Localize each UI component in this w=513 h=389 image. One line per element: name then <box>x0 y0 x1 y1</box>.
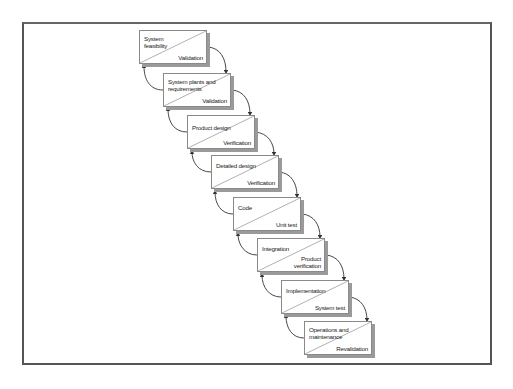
stage-box-3: Product design Verification <box>187 115 255 149</box>
phase-label: Detailed design <box>216 162 274 169</box>
phase-label: System feasibility <box>144 35 178 49</box>
check-label: Verification <box>247 179 275 186</box>
stage-box-7: Implementation System test <box>281 280 349 314</box>
phase-label: System plants and requirements <box>168 78 220 92</box>
stage-box-2: System plants and requirements Validatio… <box>163 73 231 107</box>
check-label: Unit test <box>276 221 297 228</box>
check-label: Validation <box>202 97 227 104</box>
phase-label: Operations and maintenance <box>309 326 353 340</box>
phase-label: Implementation <box>286 287 344 294</box>
stage-box-4: Detailed design Verification <box>211 155 279 189</box>
check-label: Verification <box>223 139 251 146</box>
phase-label: Product design <box>192 124 250 131</box>
stage-box-5: Code Unit test <box>233 197 301 231</box>
stage-box-1: System feasibility Validation <box>139 30 207 64</box>
stage-box-8: Operations and maintenance Revalidation <box>304 321 372 355</box>
check-label: Validation <box>178 54 203 61</box>
check-label: System test <box>315 304 345 311</box>
diagram-frame <box>22 22 492 365</box>
phase-label: Integration <box>262 245 320 252</box>
check-label: Product verification <box>291 255 321 269</box>
phase-label: Code <box>238 204 296 211</box>
stage-box-6: Integration Product verification <box>257 238 325 272</box>
check-label: Revalidation <box>336 345 368 352</box>
